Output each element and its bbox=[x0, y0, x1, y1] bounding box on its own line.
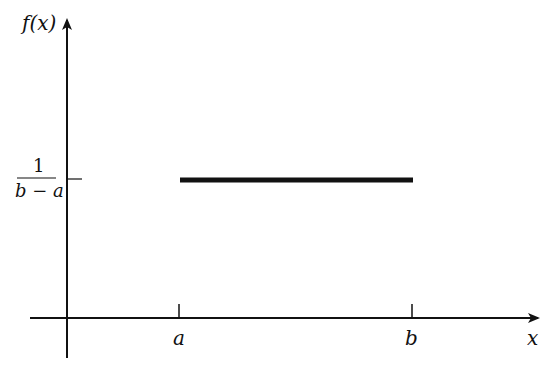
x-axis-label: x bbox=[527, 326, 538, 350]
uniform-distribution-chart: f(x) x a b 1 b − a bbox=[0, 0, 552, 382]
x-tick-label-b: b bbox=[405, 326, 418, 350]
y-tick-denominator: b − a bbox=[15, 180, 64, 201]
y-tick-numerator: 1 bbox=[33, 155, 44, 176]
y-axis-label: f(x) bbox=[20, 11, 56, 35]
x-tick-label-a: a bbox=[173, 326, 185, 350]
